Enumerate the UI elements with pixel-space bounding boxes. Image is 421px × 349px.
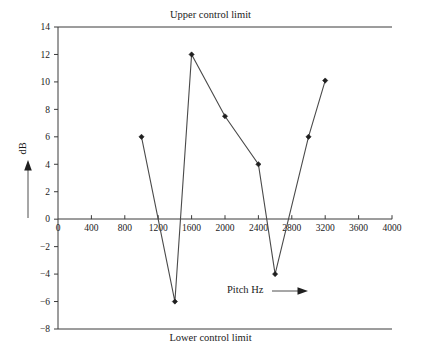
x-tick-label: 800: [118, 223, 133, 233]
y-tick-label: 2: [45, 187, 50, 197]
y-axis-title: dB: [18, 142, 29, 154]
y-tick-label: 0: [45, 214, 50, 224]
y-tick-group: 14121086420−2−4−6−8: [40, 22, 58, 334]
x-tick-label: 3200: [316, 223, 335, 233]
x-tick-label: 2400: [249, 223, 268, 233]
y-tick-label: −2: [40, 242, 50, 252]
data-point-marker: [139, 134, 144, 139]
x-tick-label: 1600: [182, 223, 201, 233]
data-point-marker: [273, 271, 278, 276]
data-point-marker: [172, 299, 177, 304]
lower-control-limit-label: Lower control limit: [0, 333, 421, 344]
x-tick-label: 400: [84, 223, 99, 233]
y-tick-label: 14: [41, 22, 51, 32]
x-tick-label: 3600: [349, 223, 368, 233]
x-tick-label: 4000: [383, 223, 402, 233]
x-axis-arrow: [272, 287, 308, 294]
y-tick-label: 12: [41, 50, 51, 60]
data-point-marker: [306, 134, 311, 139]
data-point-marker: [189, 52, 194, 57]
y-tick-label: 8: [45, 105, 50, 115]
x-tick-group: 040080012001600200024002800320036004000: [56, 215, 402, 233]
plot-area: 14121086420−2−4−6−8 04008001200160020002…: [0, 0, 421, 349]
x-tick-label: 0: [56, 223, 61, 233]
x-tick-label: 2000: [216, 223, 235, 233]
y-tick-label: 6: [45, 132, 50, 142]
y-tick-label: 4: [45, 160, 50, 170]
data-series-line: [142, 54, 326, 301]
y-tick-label: −4: [40, 269, 50, 279]
y-tick-label: −6: [40, 297, 50, 307]
control-chart: Upper control limit Lower control limit …: [0, 0, 421, 349]
upper-control-limit-label: Upper control limit: [0, 10, 421, 21]
y-axis-arrow: [24, 160, 32, 218]
x-tick-label: 1200: [149, 223, 168, 233]
x-axis-title: Pitch Hz: [227, 285, 263, 296]
data-point-marker: [323, 78, 328, 83]
y-tick-label: 10: [41, 77, 51, 87]
